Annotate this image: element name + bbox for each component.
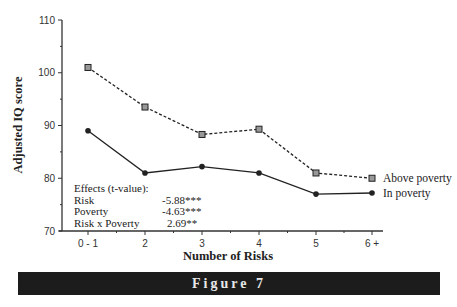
circle-marker-icon [142,170,148,176]
series-label-above-poverty: Above poverty [383,172,452,185]
line-chart: 7080901001100 - 123456 +Number of RisksA… [0,0,457,270]
effects-title: Effects (t-value): [74,183,201,195]
y-tick-label: 100 [38,67,55,78]
figure-caption-banner: Figure 7 [18,272,440,295]
circle-marker-icon [85,128,91,134]
y-tick-label: 70 [44,226,56,237]
circle-marker-icon [313,191,319,197]
square-marker-icon [142,104,148,110]
series-label-in-poverty: In poverty [383,187,431,200]
square-marker-icon [199,131,205,137]
circle-marker-icon [256,170,262,176]
x-axis-title: Number of Risks [183,249,273,263]
y-tick-label: 110 [39,15,55,26]
effect-row-poverty: Poverty -4.63*** [74,206,201,218]
x-tick-label: 3 [199,238,205,249]
square-marker-icon [313,170,319,176]
x-tick-label: 2 [142,238,148,249]
x-tick-label: 4 [256,238,262,249]
x-tick-label: 5 [313,238,319,249]
x-tick-label: 0 - 1 [78,238,98,249]
y-tick-label: 80 [44,173,56,184]
figure-caption: Figure 7 [192,276,266,292]
y-axis-title: Adjusted IQ score [11,76,25,173]
square-marker-icon [85,64,91,70]
y-tick-label: 90 [44,120,56,131]
effects-annotation: Effects (t-value): Risk -5.88*** Poverty… [74,183,201,229]
square-marker-icon [369,175,375,181]
circle-marker-icon [199,164,205,170]
square-marker-icon [256,126,262,132]
effect-row-interaction: Risk x Poverty 2.69** [74,218,201,230]
x-tick-label: 6 + [365,238,379,249]
circle-marker-icon [369,190,375,196]
